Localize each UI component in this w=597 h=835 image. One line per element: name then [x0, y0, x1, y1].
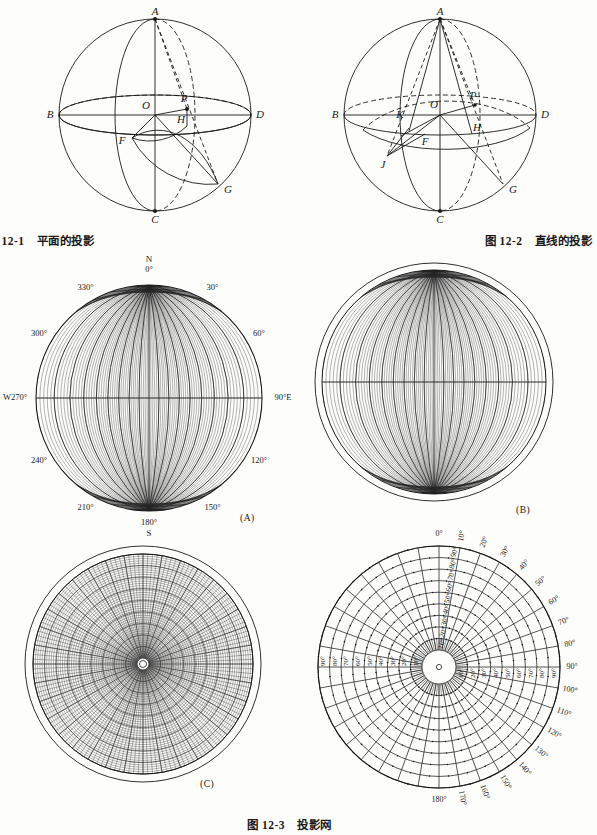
net-a-label-south: S [146, 528, 151, 538]
sphere-line-projection: A B C D O P H F G K J [325, 8, 555, 223]
net-d-bearing-90: 90° [566, 662, 577, 671]
net-d-bearing-180: 180° [431, 795, 446, 804]
net-a-svg: N0°30°60°90°E120°150°180°S210°240°W270°3… [12, 258, 287, 530]
label-H: H [176, 113, 186, 125]
net-b-schmidt [303, 258, 565, 516]
net-d-dip-left-20: 20° [400, 656, 408, 666]
net-a-bearing-120: 120° [251, 455, 267, 465]
net-d-dip-left-70: 70° [342, 656, 350, 666]
caption-12-1-text: 平面的投影 [37, 232, 95, 248]
point-A [153, 17, 157, 21]
label-J: J [381, 158, 387, 170]
net-c-svg [12, 540, 274, 798]
net-c-center [140, 661, 147, 668]
plane-circle-back [132, 130, 218, 184]
label-H: H [472, 121, 482, 133]
label-B: B [332, 108, 339, 120]
line-AK [409, 19, 440, 131]
net-d-bearing-70: 70° [557, 615, 571, 627]
net-a-bearing-30: 30° [207, 282, 219, 292]
sphere-plane-projection: A B C D O P H F G [40, 8, 270, 223]
net-d-dip-left-10: 10° [412, 656, 420, 666]
net-d-dip-left-90: 90° [319, 656, 327, 666]
label-A: A [151, 5, 159, 17]
net-d-dip-left-60: 60° [354, 656, 362, 666]
label-P: P [469, 89, 477, 101]
net-a-bearing-60: 60° [253, 328, 265, 338]
net-d-bearing-40: 40° [517, 558, 531, 572]
inclined-circle-back [363, 101, 530, 130]
caption-12-2-text: 直线的投影 [535, 232, 593, 248]
caption-12-3-text: 投影网 [297, 816, 332, 832]
net-a-bearing-270-west: W270° [3, 392, 27, 402]
net-d-bearing-110: 110° [556, 705, 573, 719]
net-d-svg: 0°10°20°30°40°50°60°70°80°90°100°110°120… [300, 522, 578, 812]
net-d-bearing-0: 0° [435, 529, 442, 538]
label-O: O [142, 99, 150, 111]
label-G: G [224, 183, 232, 195]
net-d-bearing-50: 50° [533, 574, 547, 588]
net-d-bearing-30: 30° [498, 544, 511, 558]
net-a-bearing-90-east: 90°E [274, 392, 291, 402]
net-d-bearing-10: 10° [456, 530, 467, 543]
label-K: K [395, 108, 404, 120]
net-a-grid [36, 239, 262, 556]
net-c-tag: (C) [200, 779, 214, 789]
label-O: O [430, 98, 438, 110]
caption-12-3: 图 12-3 投影网 [0, 816, 579, 832]
net-d-dip-right-80: 80° [538, 668, 546, 678]
label-D: D [255, 108, 264, 120]
net-b-tag: (B) [516, 505, 530, 515]
label-B: B [47, 108, 54, 120]
net-a-bearing-150: 150° [204, 502, 220, 512]
net-a-tag: (A) [240, 513, 255, 523]
net-a-bearing-210: 210° [77, 502, 93, 512]
net-a-coarse-grid [36, 244, 262, 553]
caption-12-2: 图 12-2 直线的投影 [249, 232, 597, 248]
net-d-dip-right-30: 30° [480, 668, 488, 678]
line-AG [440, 19, 503, 184]
net-a-bearing-180: 180° [141, 517, 157, 527]
net-a-wulff: N0°30°60°90°E120°150°180°S210°240°W270°3… [12, 258, 287, 530]
line-OJ [387, 115, 440, 156]
net-b-coarse-grid [322, 229, 546, 535]
net-d-dip-right-90: 90° [550, 668, 558, 678]
net-d-dip-right-20: 20° [469, 668, 477, 678]
line-AH [440, 19, 472, 134]
net-d-bearing-80: 80° [564, 638, 577, 649]
net-d-dip-right-70: 70° [527, 668, 535, 678]
net-a-bearing-300: 300° [31, 328, 47, 338]
net-d-bearing-120: 120° [546, 725, 564, 740]
line-JF [387, 134, 425, 156]
net-c-polar-fine [12, 540, 274, 798]
point-A [438, 17, 442, 21]
net-d-bearing-100: 100° [562, 684, 579, 696]
net-d-dip-left-40: 40° [377, 656, 385, 666]
net-d-bearing-160: 160° [478, 783, 492, 800]
net-d-polar-coordinate: 0°10°20°30°40°50°60°70°80°90°100°110°120… [300, 522, 578, 812]
label-C: C [436, 213, 444, 225]
point-P [473, 103, 477, 107]
label-P: P [180, 92, 188, 104]
net-d-dip-right-10: 10° [457, 668, 465, 678]
net-d-bearing-60: 60° [547, 593, 561, 606]
net-d-dip-right-40: 40° [492, 668, 500, 678]
plane-circle-front [132, 138, 218, 184]
net-d-dip-left-80: 80° [331, 656, 339, 666]
net-a-bearing-240: 240° [31, 455, 47, 465]
figure-12-1: A B C D O P H F G [40, 8, 270, 223]
net-d-dip-right-60: 60° [515, 668, 523, 678]
caption-12-3-number: 图 12-3 [247, 816, 285, 832]
inclined-circle-front [363, 128, 530, 149]
line-OK2 [401, 115, 440, 136]
net-d-bearing-130: 130° [533, 744, 550, 761]
net-b-grid [322, 225, 546, 539]
net-a-label-north: N [146, 254, 153, 264]
line-OP [440, 105, 475, 115]
net-d-bearing-20: 20° [478, 535, 490, 549]
net-d-bearing-170: 170° [457, 790, 469, 807]
net-b-svg [303, 258, 565, 516]
net-d-dip-right-50: 50° [504, 668, 512, 678]
label-D: D [540, 108, 549, 120]
